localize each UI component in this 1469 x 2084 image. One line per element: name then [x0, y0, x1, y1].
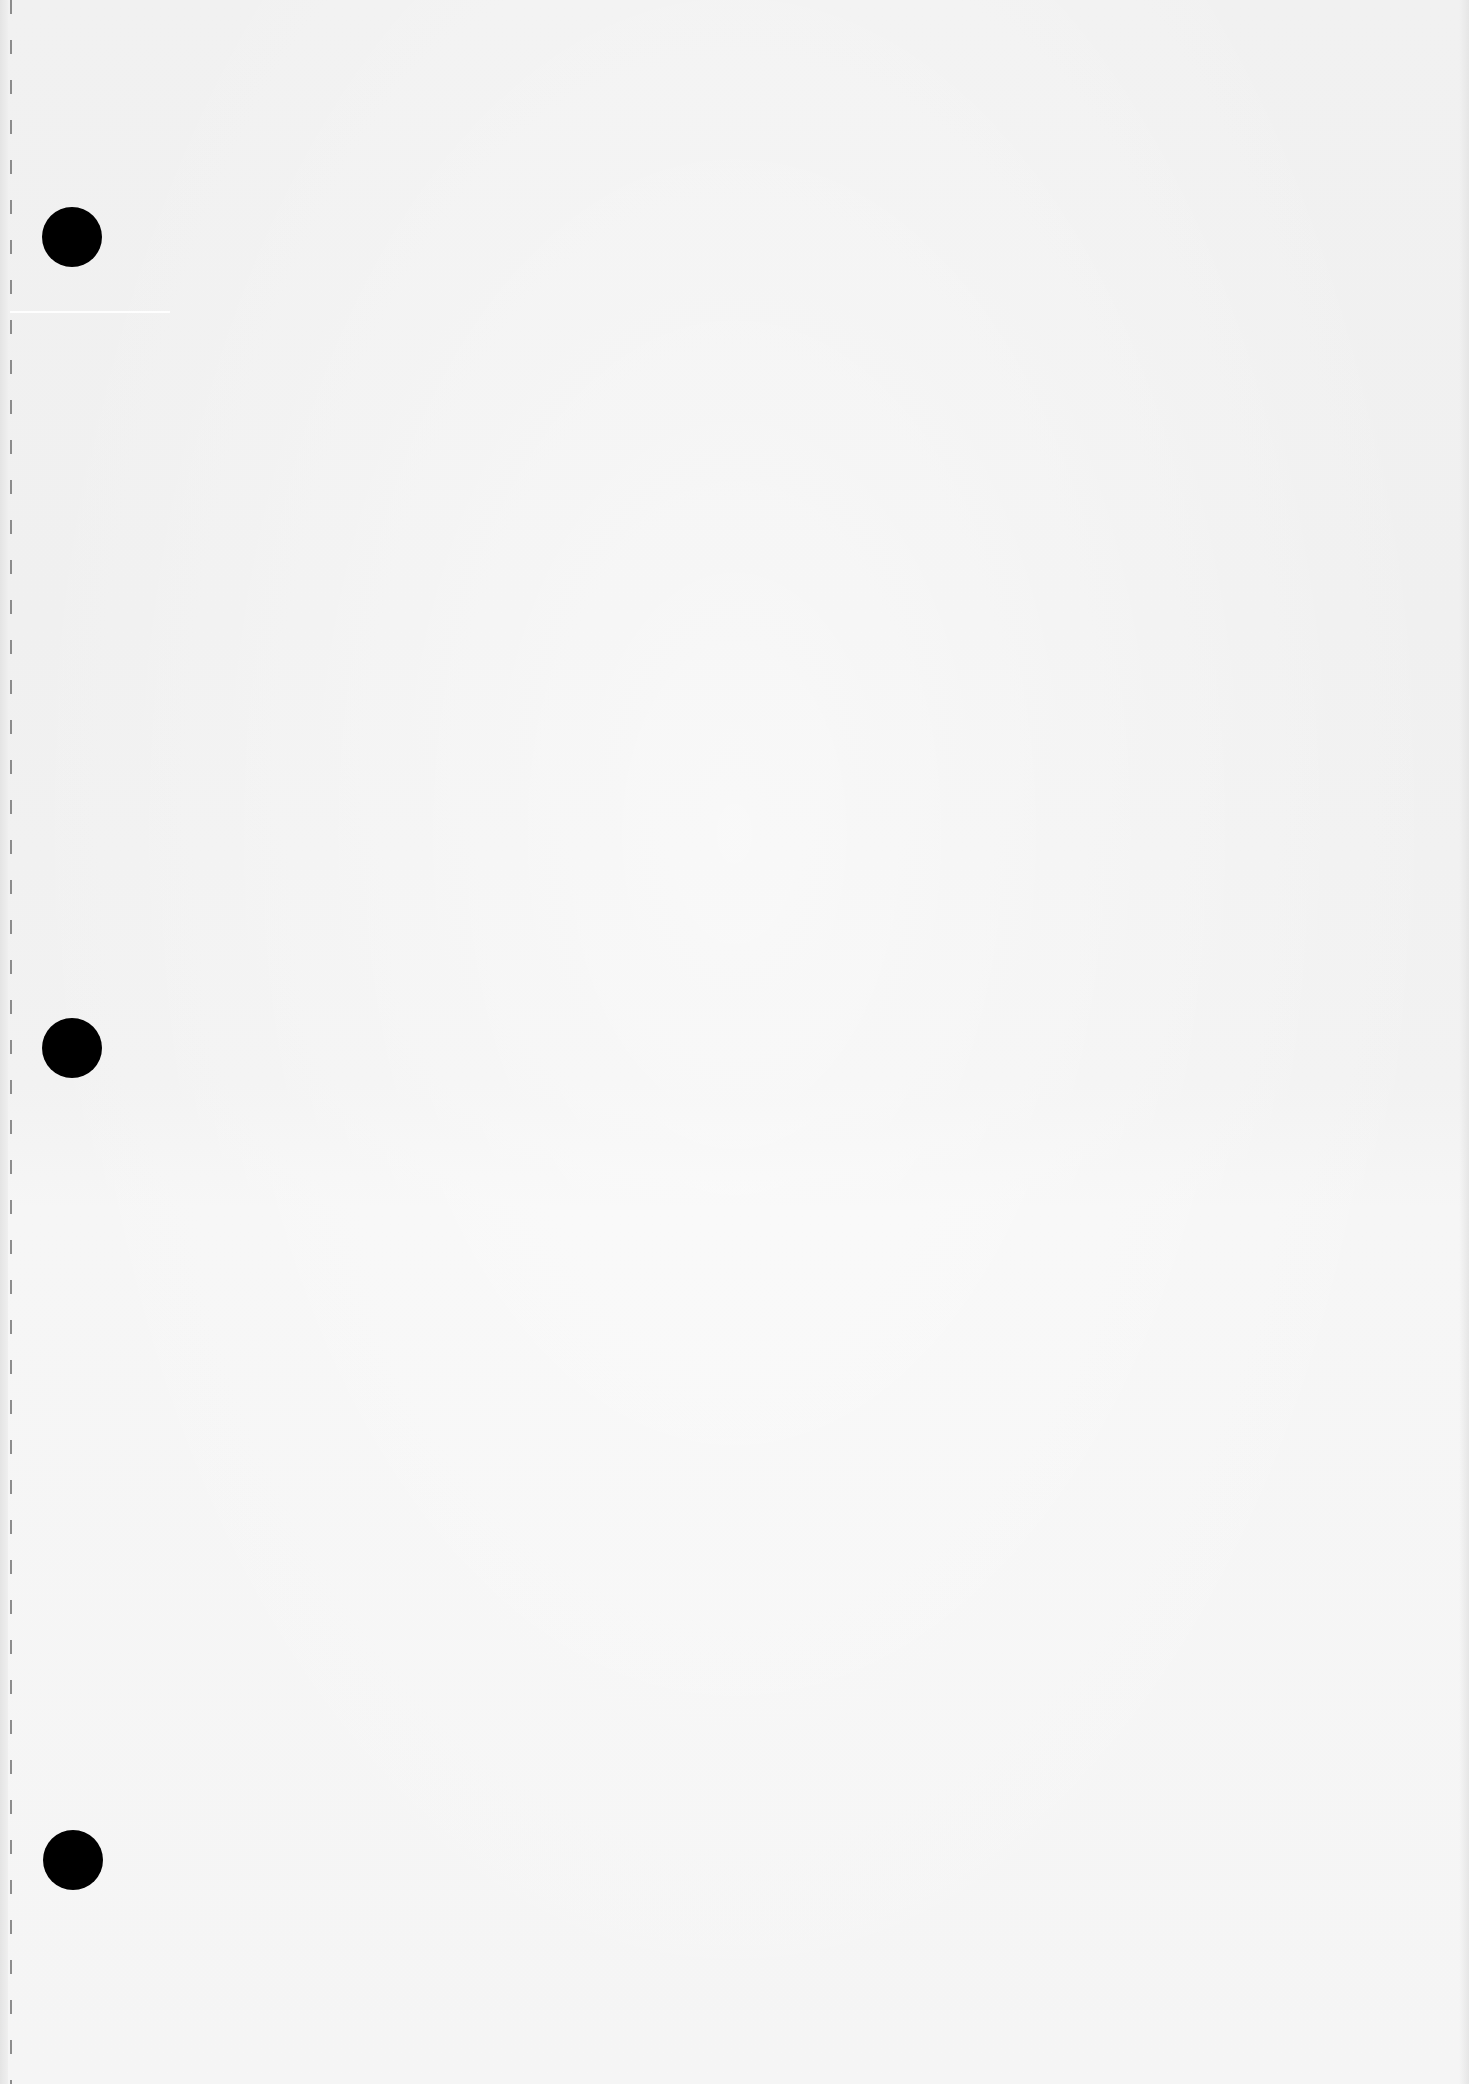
punch-hole-bottom: [43, 1830, 103, 1890]
scanned-page: [0, 0, 1469, 2084]
punch-hole-middle: [42, 1018, 102, 1078]
right-edge-shadow: [1459, 0, 1469, 2084]
scan-streak: [10, 311, 170, 313]
left-margin-shadow: [0, 0, 8, 2084]
punch-hole-top: [42, 207, 102, 267]
